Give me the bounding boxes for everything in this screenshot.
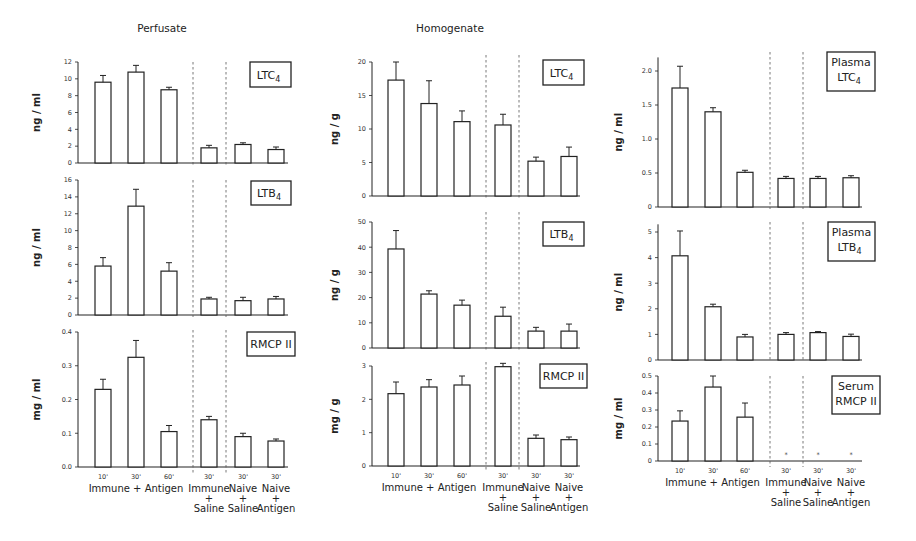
bar — [528, 331, 544, 348]
y-tick-label: 0 — [648, 457, 652, 465]
y-tick-label: 0 — [362, 462, 366, 470]
bar — [268, 441, 284, 467]
y-tick-label: 0.2 — [642, 423, 652, 431]
subscript: 4 — [568, 73, 573, 82]
analyte-label: Serum — [838, 380, 874, 393]
y-tick-label: 10 — [358, 125, 366, 133]
y-tick-label: 2 — [362, 396, 366, 404]
bar — [495, 125, 511, 196]
y-tick-label: 0.2 — [62, 396, 72, 404]
y-tick-label: 12 — [64, 210, 72, 218]
y-tick-label: 10 — [64, 75, 72, 83]
y-tick-label: 50 — [358, 218, 366, 226]
y-tick-label: 1 — [648, 331, 652, 339]
bar — [528, 161, 544, 196]
bar — [128, 72, 144, 163]
bar — [737, 417, 753, 461]
y-tick-label: 2.0 — [642, 67, 652, 75]
analyte-label: RMCP II — [543, 370, 584, 383]
bar — [268, 150, 284, 163]
y-tick-label: 0.1 — [62, 430, 72, 438]
y-tick-label: 20 — [358, 58, 366, 66]
bar-chart-homogenate-ltc4: 05101520ng / gLTC4 — [329, 55, 584, 200]
bar-chart-perfusate-rmcp-ii: 0.00.10.20.30.4mg / mlRMCP II10'30'60'30… — [31, 328, 295, 514]
y-tick-label: 16 — [64, 176, 72, 184]
bar — [705, 112, 721, 207]
group-label-naive-antigen: Antigen — [832, 497, 871, 508]
bar — [421, 387, 437, 466]
bar — [128, 357, 144, 467]
bar — [810, 333, 826, 360]
y-tick-label: 1 — [362, 429, 366, 437]
group-label-naive-saline: Saline — [228, 503, 259, 514]
bar — [201, 420, 217, 467]
bar — [737, 172, 753, 207]
time-label: 60' — [740, 467, 750, 475]
group-label-immune-antigen: Immune + Antigen — [665, 477, 760, 488]
time-label: 30' — [813, 467, 823, 475]
y-tick-label: 14 — [64, 193, 72, 201]
y-tick-label: 5 — [648, 228, 652, 236]
bar — [843, 178, 859, 207]
subscript: 4 — [568, 234, 573, 243]
time-label: 60' — [457, 472, 467, 480]
subscript: 4 — [275, 75, 280, 84]
bar — [95, 82, 111, 163]
analyte-label: RMCP II — [835, 395, 876, 408]
bar — [201, 148, 217, 163]
y-tick-label: 0 — [362, 344, 366, 352]
y-tick-label: 0 — [68, 159, 72, 167]
y-tick-label: 30 — [358, 269, 366, 277]
bar — [388, 394, 404, 466]
bar — [235, 301, 251, 315]
y-tick-label: 0.5 — [642, 169, 652, 177]
y-tick-label: 4 — [68, 126, 72, 134]
y-tick-label: 0.4 — [642, 389, 652, 397]
bar — [235, 437, 251, 467]
y-tick-label: 1.5 — [642, 101, 652, 109]
bar — [161, 90, 177, 163]
y-tick-label: 0 — [648, 356, 652, 364]
bar — [421, 104, 437, 196]
time-label: 30' — [238, 473, 248, 481]
bar — [95, 389, 111, 467]
time-label: 10' — [391, 472, 401, 480]
subscript: 4 — [856, 247, 861, 256]
below-detection-marker: * — [849, 451, 853, 459]
bar — [161, 271, 177, 315]
bar — [778, 178, 794, 207]
y-tick-label: 8 — [68, 244, 72, 252]
time-label: 30' — [498, 472, 508, 480]
y-axis-label: mg / ml — [613, 397, 624, 439]
bar — [737, 337, 753, 360]
y-tick-label: 0.1 — [642, 440, 652, 448]
time-label: 10' — [675, 467, 685, 475]
y-tick-label: 2 — [68, 294, 72, 302]
y-axis-label: ng / ml — [31, 93, 42, 132]
analyte-label: RMCP II — [250, 338, 291, 351]
group-label-naive-antigen: Antigen — [257, 503, 296, 514]
bar-chart-plasma-plasma-ltb4: 012345ng / mlPlasmaLTB4 — [613, 222, 875, 364]
panel-title-perfusate: Perfusate — [137, 22, 187, 34]
y-tick-label: 8 — [68, 92, 72, 100]
y-tick-label: 6 — [68, 261, 72, 269]
y-tick-label: 2 — [68, 142, 72, 150]
group-label-naive-saline: Saline — [521, 502, 552, 513]
group-label-immune-saline: Saline — [771, 497, 802, 508]
bar — [561, 156, 577, 196]
bar — [810, 178, 826, 207]
y-tick-label: 12 — [64, 58, 72, 66]
analyte-label: Plasma — [832, 226, 872, 239]
bar — [454, 305, 470, 348]
bar — [388, 80, 404, 196]
time-label: 30' — [781, 467, 791, 475]
y-tick-label: 0.5 — [642, 372, 652, 380]
bar — [454, 122, 470, 196]
subscript: 4 — [856, 77, 861, 86]
bar — [201, 299, 217, 315]
bar — [705, 307, 721, 360]
y-tick-label: 0.3 — [642, 406, 652, 414]
y-tick-label: 5 — [362, 159, 366, 167]
y-tick-label: 3 — [648, 280, 652, 288]
time-label: 10' — [98, 473, 108, 481]
